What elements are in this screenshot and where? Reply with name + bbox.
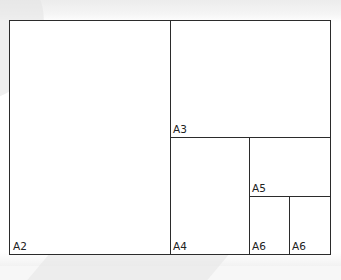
label-a5: A5	[252, 183, 266, 194]
sheet-a3	[170, 20, 331, 138]
sheet-a4	[170, 137, 250, 255]
label-a6-left: A6	[252, 241, 266, 252]
label-a6-right: A6	[292, 241, 306, 252]
sheet-a2	[9, 20, 171, 255]
label-a3: A3	[173, 124, 187, 135]
label-a2: A2	[13, 241, 27, 252]
label-a4: A4	[173, 241, 187, 252]
